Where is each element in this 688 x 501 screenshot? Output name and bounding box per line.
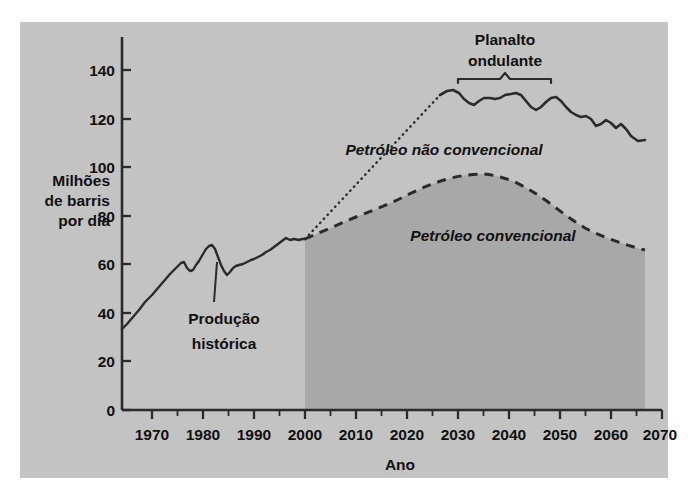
x-tick-label-1970: 1970	[135, 426, 169, 443]
x-tick-label-2060: 2060	[594, 426, 628, 443]
x-tick-label-1990: 1990	[237, 426, 271, 443]
y-tick-label-20: 20	[98, 353, 115, 370]
x-tick-label-2020: 2020	[390, 426, 424, 443]
y-axis-title-line3: por dia	[58, 212, 110, 229]
annotation-historical-line1: Produção	[188, 310, 259, 327]
x-axis-title: Ano	[385, 456, 415, 473]
conventional-shaded-area	[305, 174, 645, 410]
y-tick-label-120: 120	[89, 111, 115, 128]
annotation-plateau-line1: Planalto	[475, 31, 535, 48]
annotation-unconventional-oil: Petróleo não convencional	[345, 141, 543, 158]
annotation-plateau-line2: ondulante	[468, 52, 542, 69]
x-tick-label-2000: 2000	[288, 426, 322, 443]
chart-figure: 0 20 40 60 80 100 120 140 Milhões de bar…	[0, 0, 688, 501]
y-tick-label-40: 40	[98, 305, 115, 322]
y-tick-label-0: 0	[106, 402, 115, 419]
x-tick-label-2040: 2040	[492, 426, 526, 443]
x-tick-label-2010: 2010	[339, 426, 373, 443]
x-tick-label-1980: 1980	[186, 426, 220, 443]
annotation-historical-line2: histórica	[192, 335, 257, 352]
y-axis-title-line2: de barris	[45, 192, 110, 209]
y-tick-label-60: 60	[98, 256, 115, 273]
historical-leader-line	[214, 262, 217, 302]
y-axis-ticks	[122, 70, 131, 410]
chart-svg-container: 0 20 40 60 80 100 120 140 Milhões de bar…	[0, 0, 688, 501]
x-tick-label-2050: 2050	[543, 426, 577, 443]
unconventional-oil-curve	[440, 90, 645, 141]
x-tick-label-2030: 2030	[441, 426, 475, 443]
y-axis-title-line1: Milhões	[52, 172, 110, 189]
plateau-bracket	[458, 73, 551, 83]
oil-production-chart: 0 20 40 60 80 100 120 140 Milhões de bar…	[0, 0, 688, 501]
y-tick-label-140: 140	[89, 62, 115, 79]
annotation-conventional-oil: Petróleo convencional	[410, 227, 576, 244]
x-tick-label-2070: 2070	[643, 426, 677, 443]
